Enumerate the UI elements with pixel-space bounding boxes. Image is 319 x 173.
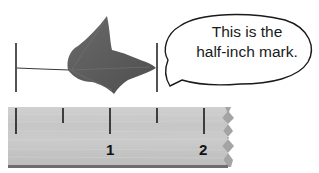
speech-bubble-line-1: This is the <box>182 22 312 42</box>
ruler-bottom-edge <box>8 165 228 168</box>
ruler-measurement-illustration: This is the half-inch mark. 1 2 <box>0 0 319 173</box>
speech-bubble-line-2: half-inch mark. <box>182 42 312 62</box>
ruler-label-two: 2 <box>199 141 207 158</box>
ruler-label-one: 1 <box>106 141 114 158</box>
speech-bubble-text: This is the half-inch mark. <box>182 22 312 62</box>
leaf-icon <box>67 16 156 94</box>
ruler <box>8 107 234 168</box>
leaf-stem <box>17 68 70 70</box>
